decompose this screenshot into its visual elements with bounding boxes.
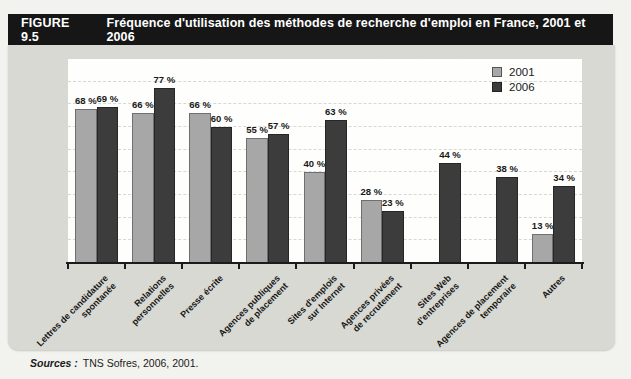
value-label-2006-1: 77 % [154, 74, 176, 85]
value-label-2006-7: 38 % [496, 163, 518, 174]
value-label-2001-0: 68 % [75, 95, 97, 106]
x-axis-tick-9 [581, 264, 583, 269]
x-axis-tick-2 [181, 264, 183, 269]
value-label-2006-6: 44 % [439, 149, 461, 160]
bar-2006-0 [97, 107, 119, 263]
value-label-2001-3: 55 % [246, 124, 268, 135]
figure-number: FIGURE 9.5 [21, 16, 90, 44]
plot-area: 20012006 68 %66 %66 %55 %40 %28 %13 %69 … [68, 59, 582, 263]
legend-swatch-2001 [492, 67, 502, 77]
value-label-2006-0: 69 % [96, 93, 118, 104]
source-line: Sources :TNS Sofres, 2006, 2001. [30, 357, 198, 369]
x-axis-tick-0 [67, 264, 69, 269]
value-label-2006-2: 60 % [211, 113, 233, 124]
gridline-80 [68, 81, 582, 82]
value-label-2001-2: 66 % [189, 99, 211, 110]
bar-2006-3 [268, 134, 290, 263]
page: { "figure": { "label": "FIGURE 9.5", "ti… [0, 0, 631, 379]
x-axis-tick-1 [124, 264, 126, 269]
bar-2001-2 [189, 113, 211, 263]
legend-swatch-2006 [492, 82, 502, 92]
value-label-2006-3: 57 % [268, 120, 290, 131]
bar-2006-8 [553, 186, 575, 263]
value-label-2006-5: 23 % [382, 197, 404, 208]
x-axis-tick-6 [410, 264, 412, 269]
x-axis-line [66, 262, 584, 264]
bar-2001-8 [532, 234, 554, 263]
figure-title: Fréquence d'utilisation des méthodes de … [106, 16, 613, 44]
bar-2006-7 [496, 177, 518, 263]
value-label-2001-1: 66 % [132, 99, 154, 110]
bar-2001-5 [361, 200, 383, 263]
bar-2006-1 [154, 88, 176, 263]
legend-item-2001: 2001 [492, 66, 535, 78]
value-label-2001-8: 13 % [532, 220, 554, 231]
bar-2001-3 [246, 138, 268, 263]
value-label-2001-4: 40 % [303, 158, 325, 169]
bar-2006-5 [382, 211, 404, 263]
x-axis-tick-4 [295, 264, 297, 269]
bar-2001-0 [75, 109, 97, 263]
x-axis-tick-7 [467, 264, 469, 269]
legend-label-2006: 2006 [509, 81, 535, 93]
figure-title-bar: FIGURE 9.5 Fréquence d'utilisation des m… [8, 14, 613, 45]
x-axis-tick-8 [524, 264, 526, 269]
value-label-2006-8: 34 % [553, 172, 575, 183]
bar-2001-1 [132, 113, 154, 263]
gridline-90 [68, 58, 582, 59]
bar-2006-4 [325, 120, 347, 263]
bar-2001-4 [304, 172, 326, 263]
value-label-2006-4: 63 % [325, 106, 347, 117]
x-axis-tick-3 [238, 264, 240, 269]
bar-2006-2 [211, 127, 233, 263]
legend-item-2006: 2006 [492, 81, 535, 93]
value-label-2001-5: 28 % [361, 186, 383, 197]
x-axis-tick-5 [353, 264, 355, 269]
bar-2006-6 [439, 163, 461, 263]
legend-label-2001: 2001 [509, 66, 535, 78]
